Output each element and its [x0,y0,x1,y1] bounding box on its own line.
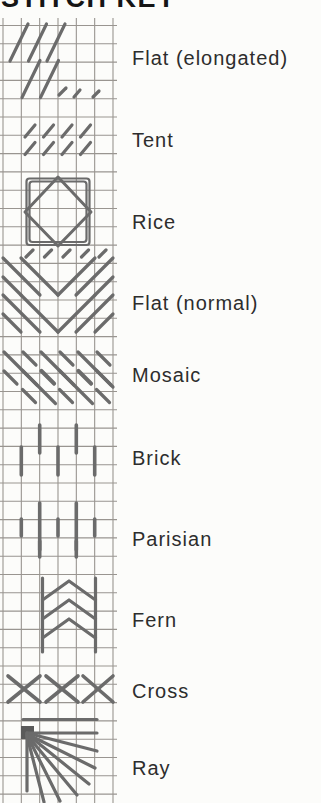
stitch-tent [81,143,91,155]
stitch-flat-normal [82,250,89,257]
stitch-label-cross: Cross [132,679,189,703]
stitch-label-flat-elongated: Flat (elongated) [132,46,288,70]
stitch-grid [0,0,120,803]
stitch-flat-normal [99,250,106,257]
stitch-flat-elongated [59,88,66,95]
stitch-mosaic [79,371,92,384]
stitch-mosaic [60,352,73,365]
stitch-flat-normal [3,314,21,332]
stitch-flat-elongated [47,24,65,61]
stitch-flat-normal [45,250,52,257]
stitch-mosaic [23,352,36,365]
stitch-label-flat-normal: Flat (normal) [132,291,258,315]
stitch-flat-normal [95,277,113,295]
stitch-flat-normal [26,250,33,257]
stitch-flat-normal [95,314,113,332]
stitch-flat-normal [63,250,70,257]
stitch-flat-elongated [41,61,59,98]
stitch-flat-elongated [10,24,28,61]
stitch-flat-elongated [22,61,40,98]
stitch-flat-elongated [74,90,80,97]
stitch-fern [43,600,96,619]
stitch-label-rice: Rice [132,210,176,234]
stitch-mosaic [97,352,110,365]
stitch-label-fern: Fern [132,608,177,632]
stitch-flat-normal [3,277,21,295]
stitch-tent [62,143,72,155]
stitch-label-brick: Brick [132,446,181,470]
stitch-fern [43,581,96,600]
stitch-mosaic [23,371,56,404]
stitch-label-tent: Tent [132,128,174,152]
stitch-tent [25,143,35,155]
stitch-label-ray: Ray [132,756,171,780]
stitch-flat-elongated [93,91,99,97]
stitch-flat-elongated [29,24,47,61]
stitch-label-parisian: Parisian [132,527,212,551]
stitch-mosaic [42,371,55,384]
stitch-fern [43,619,96,638]
stitch-label-mosaic: Mosaic [132,363,201,387]
stitch-tent [44,143,54,155]
